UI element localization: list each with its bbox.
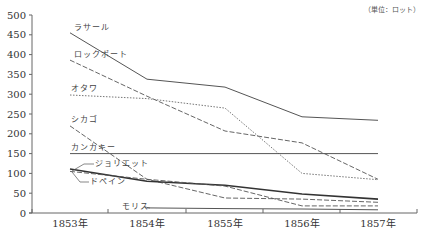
line-chart: （単位：ロット） 0501001502002503003504004505001… <box>0 0 425 231</box>
y-tick-label: 250 <box>7 109 26 120</box>
y-tick-label: 50 <box>13 188 26 199</box>
series-label: カンカキー <box>71 143 116 152</box>
series-label: モリス <box>122 202 149 211</box>
series-label: ドペイン <box>90 177 126 186</box>
y-tick-label: 150 <box>7 148 26 159</box>
series-label: シカゴ <box>71 114 98 124</box>
y-tick-label: 350 <box>7 69 26 80</box>
y-tick-label: 100 <box>7 168 26 179</box>
series-label: ジョリエット <box>95 159 149 168</box>
series-line <box>70 33 378 121</box>
x-tick-label: 1856年 <box>284 217 319 229</box>
y-tick-label: 300 <box>7 89 26 100</box>
x-tick-label: 1854年 <box>129 217 164 229</box>
y-tick-label: 500 <box>7 10 26 21</box>
y-tick-label: 200 <box>7 128 26 139</box>
series-labels: ラサールロックポートオタワシカゴカンカキージョリエットドペインモリス <box>71 23 150 211</box>
y-tick-label: 400 <box>7 49 26 60</box>
series-label: オタワ <box>71 84 98 93</box>
series-label: ロックポート <box>74 50 128 59</box>
series-label: ラサール <box>74 23 110 32</box>
x-tick-label: 1857年 <box>360 217 395 229</box>
x-tick-label: 1853年 <box>52 217 87 229</box>
y-tick-label: 450 <box>7 29 26 40</box>
unit-label: （単位：ロット） <box>364 5 420 14</box>
x-tick-label: 1855年 <box>207 217 242 229</box>
y-tick-label: 0 <box>20 208 26 219</box>
